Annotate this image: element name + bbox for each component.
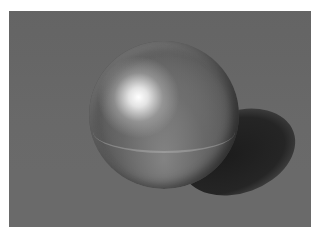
reflected-horizon	[93, 111, 235, 153]
chrome-sphere	[89, 41, 239, 189]
render-image	[9, 11, 311, 227]
